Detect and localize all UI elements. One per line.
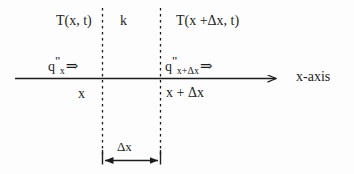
heat-flux-label-right: q"x+Δx⇒ <box>165 54 212 76</box>
heat-flux-label-left: q"x⇒ <box>48 54 78 76</box>
flux-right-subscript: x+Δx <box>177 65 199 76</box>
flux-left-symbol: q <box>48 59 55 74</box>
flux-right-symbol: q <box>165 59 172 74</box>
thermal-conductivity-label: k <box>120 14 127 28</box>
position-label-left: x <box>78 87 85 101</box>
thickness-label: Δx <box>117 140 132 153</box>
double-arrow-right-icon: ⇒ <box>65 58 79 74</box>
double-arrow-right-icon: ⇒ <box>199 58 213 74</box>
temperature-label-right: T(x +Δx, t) <box>176 14 239 28</box>
x-axis-label: x-axis <box>296 70 330 84</box>
heat-conduction-diagram: T(x, t) k T(x +Δx, t) q"x⇒ q"x+Δx⇒ x x +… <box>0 0 354 174</box>
temperature-label-left: T(x, t) <box>56 14 92 28</box>
position-label-right: x + Δx <box>166 86 204 100</box>
